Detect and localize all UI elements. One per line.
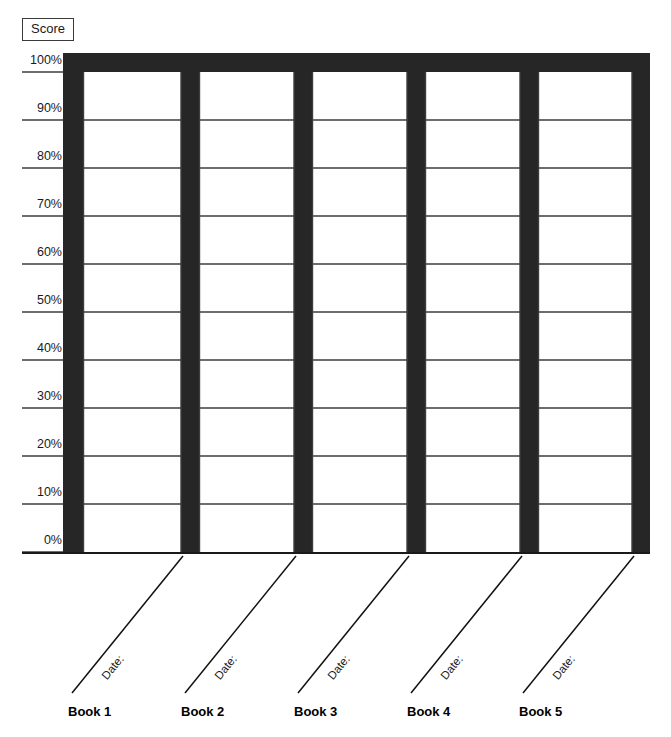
y-tick-label-80: 80% [0,149,62,163]
score-tracking-chart: Score 100% 90% 80% 70% 60% 50% 40% 30% 2… [0,0,671,737]
y-tick-label-60: 60% [0,245,62,259]
category-label-book-1: Book 1 [68,704,111,719]
y-tick-label-70: 70% [0,197,62,211]
category-label-book-2: Book 2 [181,704,224,719]
y-tick-label-0: 0% [0,533,62,547]
leader-line-book-2 [185,556,296,693]
frame-divider-2 [294,53,312,552]
y-tick-label-40: 40% [0,341,62,355]
y-axis-title-text: Score [31,21,65,36]
leader-line-book-1 [72,556,183,693]
y-tick-label-100: 100% [0,53,62,67]
category-label-book-5: Book 5 [519,704,562,719]
y-tick-label-90: 90% [0,101,62,115]
frame-divider-0 [63,53,83,552]
leader-line-book-3 [298,556,409,693]
category-label-book-3: Book 3 [294,704,337,719]
y-tick-label-10: 10% [0,485,62,499]
y-tick-label-20: 20% [0,437,62,451]
frame-divider-3 [407,53,425,552]
y-axis-title-box: Score [22,18,74,41]
leader-line-book-5 [523,556,634,693]
frame-divider-1 [181,53,199,552]
leader-line-group [72,556,634,693]
y-tick-label-30: 30% [0,389,62,403]
frame-top-bar [63,53,650,72]
y-tick-label-50: 50% [0,293,62,307]
frame-divider-5 [632,53,650,552]
leader-line-book-4 [411,556,522,693]
category-label-book-4: Book 4 [407,704,450,719]
frame-divider-4 [520,53,538,552]
chart-canvas [0,0,671,737]
